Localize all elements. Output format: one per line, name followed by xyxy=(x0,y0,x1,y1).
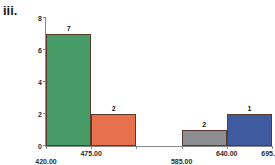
x-axis-tick xyxy=(46,146,47,149)
bar-value-label: 7 xyxy=(67,25,71,32)
histogram-bar xyxy=(91,114,136,146)
x-axis-tick-label: 475.00 xyxy=(80,150,101,157)
y-axis-tick-label: 0 xyxy=(38,143,42,150)
x-axis-tick xyxy=(136,146,137,149)
y-axis-tick-label: 2 xyxy=(38,111,42,118)
x-axis-tick xyxy=(91,146,92,149)
x-axis-tick xyxy=(272,146,273,149)
bar-value-label: 2 xyxy=(112,105,116,112)
histogram-bar xyxy=(227,114,272,146)
bar-value-label: 1 xyxy=(247,105,251,112)
x-axis-line xyxy=(45,146,273,147)
x-axis-tick xyxy=(182,146,183,149)
x-axis-tick-label: 420.00 xyxy=(35,158,56,165)
panel-label: iii. xyxy=(3,4,17,17)
bar-value-label: 2 xyxy=(202,121,206,128)
y-axis-tick-label: 8 xyxy=(38,15,42,22)
x-axis-tick-label: 585.00 xyxy=(171,158,192,165)
y-axis-tick xyxy=(43,17,46,18)
histogram-bar xyxy=(46,34,91,146)
histogram-figure: iii. 02468 420.00475.00585.00640.00695.0… xyxy=(0,0,275,165)
histogram-bar xyxy=(182,130,227,146)
y-axis-tick-label: 6 xyxy=(38,47,42,54)
plot-area: 02468 420.00475.00585.00640.00695.00 722… xyxy=(46,18,272,146)
x-axis-tick-label: 640.00 xyxy=(216,150,237,157)
x-axis-tick xyxy=(227,146,228,149)
x-axis-tick-label: 695.00 xyxy=(261,150,275,157)
y-axis-tick-label: 4 xyxy=(38,79,42,86)
